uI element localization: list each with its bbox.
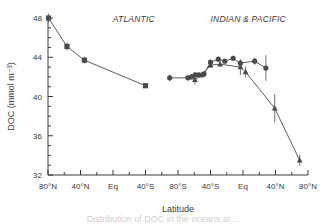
axis-spine <box>48 16 308 175</box>
marker-circle <box>252 59 257 64</box>
x-tick-label: 80°N <box>39 182 57 191</box>
figure-caption: Distribution of DOC in the oceans at ... <box>0 214 327 224</box>
x-tick-label: 80°S <box>169 182 186 191</box>
figure-doc-latitude: 323640444880°N40°NEq40°S80°S40°SEq40°N80… <box>0 0 327 224</box>
x-axis-title: Latitude <box>162 204 194 214</box>
marker-circle <box>263 65 268 70</box>
marker-square <box>64 44 69 49</box>
y-tick-label: 48 <box>33 14 42 23</box>
y-tick-label: 32 <box>33 171 42 180</box>
x-tick-label: Eq <box>108 182 118 191</box>
x-tick-label: 80°N <box>299 182 317 191</box>
marker-circle <box>222 59 227 64</box>
x-tick-label: 40°N <box>72 182 90 191</box>
x-tick-label: 40°S <box>137 182 154 191</box>
marker-triangle <box>217 61 223 66</box>
marker-triangle <box>297 157 303 162</box>
series-line <box>195 64 300 160</box>
y-tick-label: 36 <box>33 132 42 141</box>
marker-circle <box>231 56 236 61</box>
y-axis-title: DOC (mmol m⁻³) <box>6 62 16 131</box>
chart-canvas: 323640444880°N40°NEq40°S80°S40°SEq40°N80… <box>0 0 327 224</box>
y-tick-label: 44 <box>33 53 42 62</box>
x-tick-label: 40°S <box>202 182 219 191</box>
region-annotation: INDIAN & PACIFIC <box>211 14 287 24</box>
marker-circle <box>167 75 172 80</box>
marker-square <box>46 15 51 20</box>
x-tick-label: 40°N <box>267 182 285 191</box>
marker-square <box>82 58 87 63</box>
region-annotation: ATLANTIC <box>112 14 156 24</box>
marker-square <box>143 83 148 88</box>
series-line <box>49 18 146 86</box>
x-tick-label: Eq <box>238 182 248 191</box>
y-tick-label: 40 <box>33 93 42 102</box>
